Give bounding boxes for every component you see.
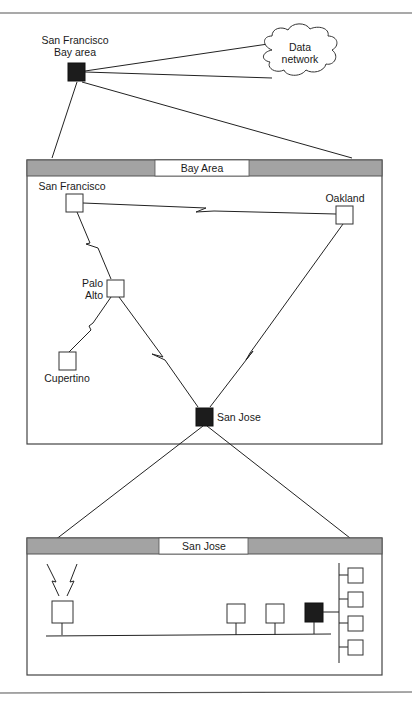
san-francisco-node[interactable] (66, 194, 83, 212)
san-jose-label: San Jose (217, 411, 261, 423)
branch-node-2[interactable] (348, 592, 363, 607)
link-sanjose-panel-left (55, 426, 203, 540)
link-sf-palo-alto (77, 212, 111, 279)
link-sf-oakland (83, 203, 336, 214)
san-jose-hub-node[interactable] (196, 408, 213, 426)
branch-node-4[interactable] (348, 640, 363, 655)
bay-area-title: Bay Area (181, 162, 224, 174)
palo-alto-node[interactable] (107, 280, 124, 297)
network-diagram: San Francisco Bay area Data network Bay … (0, 0, 412, 707)
bottom-rule (0, 692, 412, 693)
san-jose-title: San Jose (182, 540, 226, 552)
lan-node-2[interactable] (266, 604, 284, 623)
link-palo-alto-san-jose (119, 297, 198, 407)
wireless-access-node[interactable] (52, 601, 73, 623)
branch-node-1[interactable] (348, 568, 363, 583)
link-palo-alto-cupertino (69, 297, 111, 352)
bay-area-panel: Bay Area San Francisco Oakland Palo Alto… (27, 160, 382, 444)
bay-area-hub-node[interactable] (68, 63, 85, 81)
cupertino-node[interactable] (59, 352, 76, 370)
oakland-node[interactable] (336, 206, 353, 224)
wireless-signal-icon-left (47, 564, 59, 596)
cloud-label-line1: Data (289, 41, 311, 53)
san-jose-frame (27, 538, 382, 675)
top-level-group: San Francisco Bay area Data network (41, 24, 352, 158)
wireless-signal-icon-right (67, 564, 77, 596)
link-hub-cloud-2 (85, 72, 272, 78)
palo-alto-label-line1: Palo (82, 277, 103, 289)
lan-hub-node[interactable] (305, 603, 323, 622)
bay-hub-label-line2: Bay area (54, 46, 96, 58)
link-hub-bayarea-right (82, 82, 352, 158)
sf-label: San Francisco (38, 180, 105, 192)
lan-node-1[interactable] (227, 604, 245, 623)
link-hub-bayarea-left (52, 82, 77, 158)
oakland-label: Oakland (325, 192, 364, 204)
branch-node-3[interactable] (348, 616, 363, 631)
cupertino-label: Cupertino (44, 372, 90, 384)
palo-alto-label-line2: Alto (85, 289, 103, 301)
san-jose-panel: San Jose (27, 538, 382, 675)
link-sanjose-panel-right (207, 426, 350, 538)
lan-bus (46, 634, 331, 636)
cloud-label-line2: network (282, 53, 320, 65)
bay-hub-label-line1: San Francisco (41, 34, 108, 46)
link-hub-cloud-1 (85, 44, 268, 71)
link-oakland-san-jose (210, 224, 343, 407)
